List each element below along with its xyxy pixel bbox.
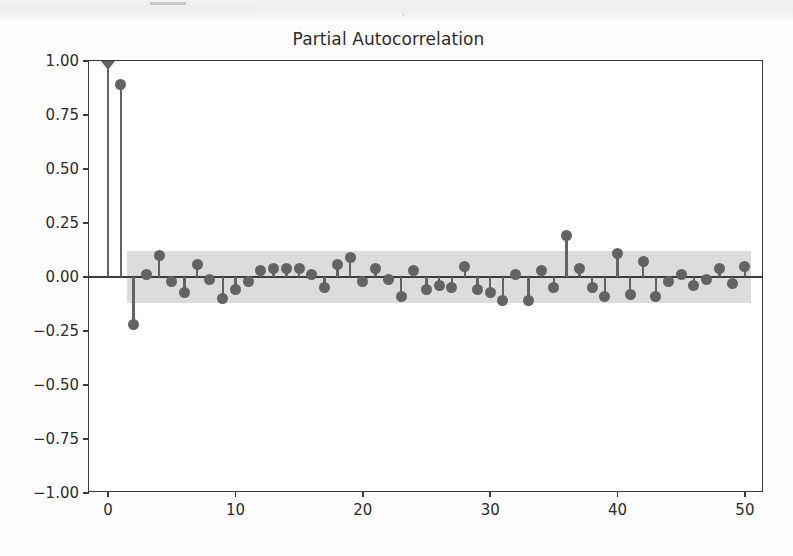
page-canvas: Partial Autocorrelation 1.000.750.500.25…	[0, 0, 793, 556]
stem-marker-dot	[115, 79, 126, 90]
stem-marker-dot	[383, 274, 394, 285]
stem-marker-dot	[434, 280, 445, 291]
x-axis-tick	[235, 491, 237, 497]
chart-title-text: Partial Autocorrelation	[293, 29, 485, 49]
stem-marker-dot	[370, 263, 381, 274]
stem-marker-dot	[294, 263, 305, 274]
x-axis-tick-label: 20	[353, 501, 372, 519]
x-axis-tick	[107, 491, 109, 497]
stem-marker-dot	[332, 259, 343, 270]
y-axis-tick-label: 1.00	[46, 52, 79, 70]
x-axis-tick	[617, 491, 619, 497]
y-axis-tick	[83, 276, 89, 278]
x-axis-tick-label: 10	[226, 501, 245, 519]
x-axis-tick-label: 40	[608, 501, 627, 519]
x-axis-tick-label: 30	[481, 501, 500, 519]
stem-marker-dot	[459, 261, 470, 272]
y-axis-tick	[83, 438, 89, 440]
stem-marker-dot	[345, 252, 356, 263]
stem-marker-dot	[612, 248, 623, 259]
stem-line	[120, 85, 122, 277]
stem-marker-dot	[663, 276, 674, 287]
figure: Partial Autocorrelation 1.000.750.500.25…	[0, 0, 793, 556]
stem-marker-dot	[714, 263, 725, 274]
stem-marker-dot	[536, 265, 547, 276]
stem-line	[107, 61, 109, 277]
stem-marker-dot	[638, 256, 649, 267]
stem-marker-dot	[396, 291, 407, 302]
stem-marker-dot	[485, 287, 496, 298]
y-axis-tick	[83, 168, 89, 170]
stem-marker-dot	[192, 259, 203, 270]
y-axis-tick-label: −0.25	[33, 322, 79, 340]
y-axis-tick	[83, 330, 89, 332]
stem-marker-dot	[523, 295, 534, 306]
stem-marker-dot	[676, 269, 687, 280]
stem-marker-dot	[268, 263, 279, 274]
y-axis-tick	[83, 222, 89, 224]
x-axis-tick-label: 50	[735, 501, 754, 519]
stem-marker-dot	[179, 287, 190, 298]
stem-marker-dot	[727, 278, 738, 289]
y-axis-tick	[83, 114, 89, 116]
y-axis-tick-label: 0.00	[46, 268, 79, 286]
y-axis-tick-label: −0.75	[33, 430, 79, 448]
plot-inner	[89, 61, 762, 491]
x-axis-tick	[362, 491, 364, 497]
stem-marker-dot	[243, 276, 254, 287]
y-axis-tick-label: 0.75	[46, 106, 79, 124]
y-axis-tick-label: −0.50	[33, 376, 79, 394]
stem-marker-dot	[574, 263, 585, 274]
stem-line	[565, 236, 567, 277]
stem-marker-dot	[154, 250, 165, 261]
y-axis-tick	[83, 384, 89, 386]
y-axis-tick-label: 0.25	[46, 214, 79, 232]
stem-marker-dot	[281, 263, 292, 274]
stem-line	[132, 277, 134, 325]
chart-title: Partial Autocorrelation	[0, 29, 793, 49]
stem-marker-dot	[128, 319, 139, 330]
stem-marker-dot	[497, 295, 508, 306]
y-axis-tick-label: 0.50	[46, 160, 79, 178]
stem-marker-dot	[625, 289, 636, 300]
y-axis-tick	[83, 60, 89, 62]
stem-marker-dot	[561, 230, 572, 241]
x-axis-tick-label: 0	[103, 501, 113, 519]
y-axis-tick	[83, 492, 89, 494]
stem-marker-triangle	[101, 61, 115, 70]
stem-marker-dot	[587, 282, 598, 293]
y-axis-tick-label: −1.00	[33, 484, 79, 502]
x-axis-tick	[744, 491, 746, 497]
plot-area: 1.000.750.500.250.00−0.25−0.50−0.75−1.00…	[88, 60, 763, 492]
stem-marker-dot	[701, 274, 712, 285]
x-axis-tick	[489, 491, 491, 497]
